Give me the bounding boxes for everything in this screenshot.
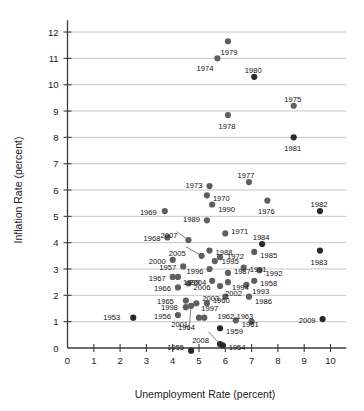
data-point (193, 300, 199, 306)
data-point-labels: 1953195419551956195719581959196019611964… (103, 48, 327, 352)
data-point-label: 2007 (161, 231, 178, 240)
data-point (251, 278, 257, 284)
data-point (204, 192, 210, 198)
data-point (175, 284, 181, 290)
data-point (188, 303, 194, 309)
data-point (225, 112, 231, 118)
x-tick-label: 4 (170, 355, 175, 366)
data-point-label: 1953 (103, 313, 120, 322)
y-tick-label: 7 (53, 158, 58, 169)
data-point-label: 1984 (253, 233, 270, 242)
data-point-label: 1989 (183, 215, 200, 224)
data-point-label: 1982 (311, 200, 328, 209)
y-tick-label: 3 (53, 264, 58, 275)
y-tick-label: 12 (48, 27, 59, 38)
y-tick-label: 2 (53, 290, 58, 301)
x-tick-label: 10 (325, 355, 336, 366)
x-tick-label: 3 (144, 355, 149, 366)
x-tick-label: 9 (302, 355, 307, 366)
data-point-label: 1969 (140, 208, 157, 217)
data-point (251, 249, 257, 255)
x-tick-label: 1 (91, 355, 96, 366)
data-point (188, 348, 194, 354)
data-point-label: 2009 (299, 316, 316, 325)
data-point (185, 237, 191, 243)
y-tick-label: 5 (53, 211, 58, 222)
y-tick-label: 0 (53, 343, 58, 354)
data-point-label: 1976 (258, 207, 275, 216)
data-point-label: 1980 (245, 66, 262, 75)
data-point-label: 1955 (167, 343, 184, 352)
data-point-label: 1992 (265, 269, 282, 278)
data-point-label: 1967 (149, 274, 166, 283)
data-point-label: 1986 (255, 297, 272, 306)
x-tick-label: 5 (196, 355, 201, 366)
data-point (291, 134, 297, 140)
data-point-label: 1990 (218, 205, 235, 214)
data-point (183, 298, 189, 304)
data-point (206, 247, 212, 253)
data-point (175, 274, 181, 280)
data-point-label: 1959 (226, 327, 243, 336)
gridlines (68, 32, 347, 322)
x-axis-title: Unemployment Rate (percent) (135, 388, 276, 400)
data-point (225, 38, 231, 44)
data-point-label: 1977 (238, 171, 255, 180)
data-point-label: 1971 (231, 227, 248, 236)
data-point-label: 1987 (234, 267, 251, 276)
data-point (180, 263, 186, 269)
data-point-label: 1956 (154, 312, 171, 321)
y-tick-label: 4 (53, 237, 58, 248)
data-point-label: 1961 (242, 320, 259, 329)
x-tick-label: 6 (223, 355, 228, 366)
data-point-label: 1974 (197, 64, 214, 73)
data-point-label: 1995 (222, 257, 239, 266)
data-point-label: 1993 (252, 287, 269, 296)
data-point (217, 283, 223, 289)
data-point-label: 1983 (311, 258, 328, 267)
data-point (199, 253, 205, 259)
data-point (225, 279, 231, 285)
y-tick-label: 6 (53, 185, 58, 196)
data-point-label: 1991 (250, 265, 267, 274)
data-point (317, 247, 323, 253)
data-point-label: 1988 (216, 248, 233, 257)
data-point-label: 1978 (218, 122, 235, 131)
data-point (183, 304, 189, 310)
x-tick-label: 7 (249, 355, 254, 366)
y-tick-label: 11 (49, 53, 59, 64)
data-point-label: 1973 (186, 181, 203, 190)
data-point-label: 2002 (225, 289, 242, 298)
data-point-label: 2008 (192, 336, 209, 345)
data-point-label: 1996 (187, 267, 204, 276)
data-point-label: 1966 (154, 284, 171, 293)
data-point-label: 1985 (260, 251, 277, 260)
data-point-label: 1981 (284, 144, 301, 153)
y-tick-label: 1 (53, 316, 58, 327)
data-point (225, 270, 231, 276)
data-point-label: 1998 (161, 303, 178, 312)
y-tick-label: 9 (53, 106, 58, 117)
data-point (212, 258, 218, 264)
data-point-label: 2000 (149, 257, 166, 266)
y-tick-labels: 0123456789101112 (48, 27, 59, 354)
data-point-label: 1962,1963 (217, 312, 253, 321)
data-point (130, 315, 136, 321)
data-point (320, 316, 326, 322)
data-point (204, 217, 210, 223)
x-tick-label: 8 (275, 355, 280, 366)
x-tick-label: 2 (117, 355, 122, 366)
data-point (246, 294, 252, 300)
data-point (222, 230, 228, 236)
x-tick-label: 0 (65, 355, 70, 366)
data-point-label: 1970 (213, 194, 230, 203)
data-point-label: 1968 (144, 234, 161, 243)
data-point-label: 1979 (220, 48, 237, 57)
y-tick-label: 10 (48, 79, 59, 90)
data-point-label: 2001 (171, 320, 188, 329)
data-point (162, 208, 168, 214)
data-point (217, 325, 223, 331)
data-point (217, 341, 223, 347)
data-point-label: 2005 (169, 249, 186, 258)
data-point-label: 1975 (284, 95, 301, 104)
